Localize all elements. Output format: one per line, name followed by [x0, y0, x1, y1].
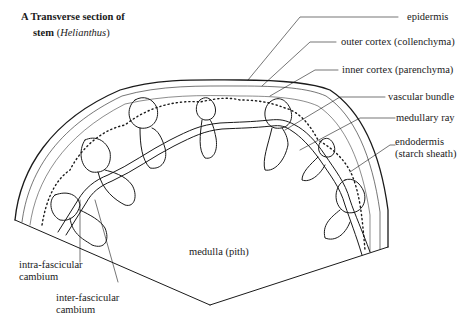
label-endodermis: endodermis(starch sheath)	[395, 136, 457, 160]
leader-inter-fascicular	[95, 200, 118, 282]
endodermis-line	[42, 98, 365, 250]
leader-medullary-ray	[300, 118, 395, 150]
leader-endodermis	[350, 145, 395, 172]
label-inner-cortex: inner cortex (parenchyma)	[342, 64, 453, 76]
label-medulla: medulla (pith)	[189, 246, 249, 258]
label-medullary-ray: medullary ray	[396, 112, 455, 124]
label-vascular-bundle: vascular bundle	[388, 91, 454, 103]
label-epidermis: epidermis	[407, 11, 448, 23]
leader-vascular-bundle	[285, 97, 385, 130]
label-inter-fascicular-cambium: inter-fascicularcambium	[56, 292, 119, 316]
label-outer-cortex: outer cortex (collenchyma)	[341, 36, 455, 48]
vascular-bundle-7	[324, 179, 365, 239]
label-intra-fascicular-cambium: intra-fascicularcambium	[19, 259, 83, 283]
vascular-bundle-3	[129, 98, 166, 169]
vascular-bundle-4	[196, 98, 216, 159]
vascular-bundle-1	[51, 193, 107, 246]
vascular-bundle-2	[81, 138, 135, 205]
leader-inner-cortex	[270, 70, 338, 96]
